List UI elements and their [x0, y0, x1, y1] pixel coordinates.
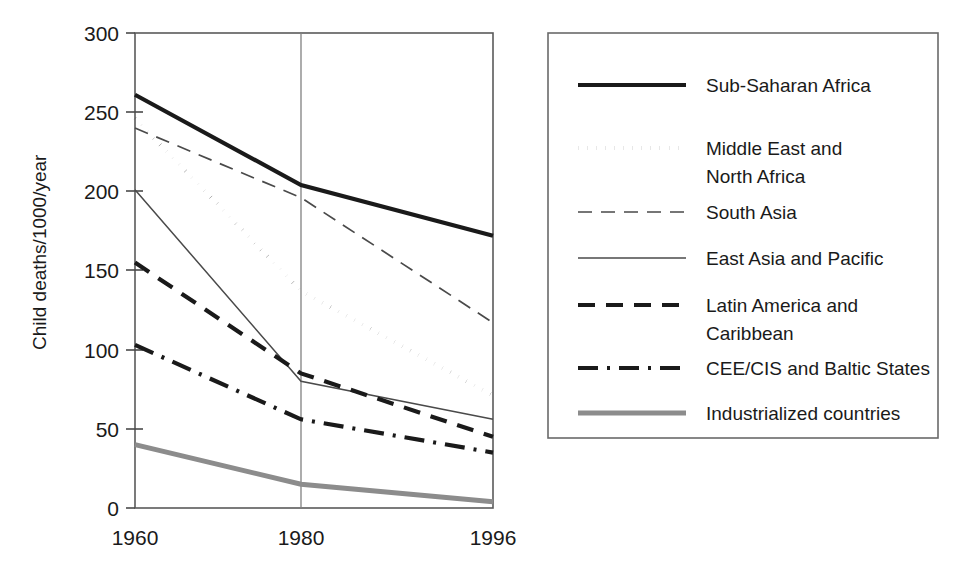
x-tick-label-1996: 1996 — [470, 526, 517, 549]
y-tick-label-0: 0 — [107, 497, 119, 520]
y-tick-label-150: 150 — [84, 259, 119, 282]
y-tick-label-100: 100 — [84, 339, 119, 362]
y-axis-title: Child deaths/1000/year — [29, 154, 50, 350]
legend-label-latin-america-and-caribbean: Latin America and — [706, 295, 858, 316]
legend-label-cee-cis-and-baltic-states: CEE/CIS and Baltic States — [706, 358, 930, 379]
legend-label-south-asia: South Asia — [706, 202, 797, 223]
legend-label-middle-east-and-north-africa-line2: North Africa — [706, 166, 806, 187]
legend-label-sub-saharan-africa: Sub-Saharan Africa — [706, 75, 871, 96]
x-tick-label-1980: 1980 — [278, 526, 325, 549]
legend-label-middle-east-and-north-africa: Middle East and — [706, 138, 842, 159]
y-tick-label-200: 200 — [84, 180, 119, 203]
legend-label-east-asia-and-pacific: East Asia and Pacific — [706, 248, 883, 269]
chart-figure: Child deaths/1000/year 300 250 200 150 1… — [0, 0, 954, 580]
x-tick-label-1960: 1960 — [112, 526, 159, 549]
y-tick-label-250: 250 — [84, 101, 119, 124]
legend-label-latin-america-and-caribbean-line2: Caribbean — [706, 323, 794, 344]
y-tick-label-300: 300 — [84, 22, 119, 45]
legend-label-industrialized-countries: Industrialized countries — [706, 403, 900, 424]
y-tick-label-50: 50 — [96, 418, 119, 441]
